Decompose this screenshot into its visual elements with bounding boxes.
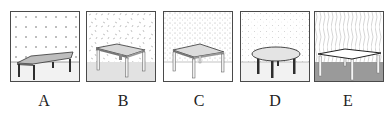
option-d-image[interactable] <box>240 11 310 82</box>
round-table-room-dots-illustration <box>241 12 310 82</box>
table-room-dense-dots-illustration <box>164 12 233 82</box>
option-e-image[interactable] <box>314 11 384 82</box>
option-b-image[interactable] <box>86 11 156 82</box>
option-d-label: D <box>260 92 290 110</box>
table-room-wavy-lines-illustration <box>315 12 384 82</box>
option-c-label: C <box>184 92 214 110</box>
option-b-label: B <box>108 92 138 110</box>
option-a-label: A <box>29 92 59 110</box>
option-e-label: E <box>333 92 363 110</box>
table-room-dashes-illustration <box>87 12 156 82</box>
table-room-crosses-illustration <box>11 12 80 82</box>
option-c-image[interactable] <box>163 11 233 82</box>
option-a-image[interactable] <box>10 11 80 82</box>
